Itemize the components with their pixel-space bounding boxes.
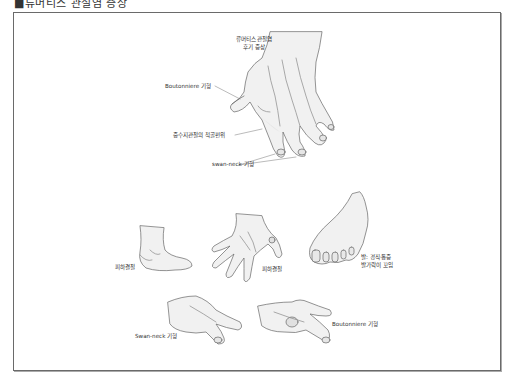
label-nodule-hand: 피하결절 [262, 266, 282, 274]
label-foot-line1: 발: 경직·통증 [361, 254, 393, 262]
main-hand-title: 류머티스 관절염 후기 증상 [224, 36, 284, 51]
label-boutonniere-bottom: Boutonniere 기형 [332, 321, 378, 329]
label-swan-neck-main: swan-neck 기형 [212, 161, 254, 169]
boutonniere-hand-drawing [258, 300, 331, 343]
label-ulnar-deviation: 중수지관절의 척골편위 [173, 132, 225, 140]
rheumatoid-arthritis-illustration [0, 0, 512, 374]
main-hand-title-line1: 류머티스 관절염 [224, 36, 284, 44]
label-swan-neck-bottom: Swan-neck 기형 [135, 333, 177, 341]
label-foot-line2: 발가락이 꼬임 [361, 262, 393, 270]
swan-neck-hand-drawing [168, 296, 242, 344]
label-nodule-ankle: 피하결절 [115, 264, 135, 272]
foot-drawing [310, 192, 369, 264]
ankle-drawing [140, 226, 192, 271]
label-boutonniere-main: Boutonniere 기형 [165, 83, 211, 91]
main-hand-title-line2: 후기 증상 [224, 44, 284, 52]
label-foot: 발: 경직·통증 발가락이 꼬임 [361, 254, 393, 269]
